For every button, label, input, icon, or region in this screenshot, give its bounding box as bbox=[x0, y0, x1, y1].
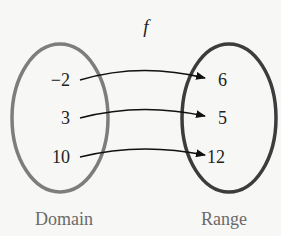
range-value-1: 6 bbox=[218, 70, 227, 90]
diagram-svg: f −2 3 10 6 5 12 Domain Range bbox=[0, 0, 281, 236]
range-value-2: 5 bbox=[218, 108, 227, 128]
function-name: f bbox=[143, 16, 151, 37]
domain-ellipse bbox=[12, 44, 108, 192]
function-mapping-diagram: f −2 3 10 6 5 12 Domain Range bbox=[0, 0, 281, 236]
domain-value-3: 10 bbox=[52, 147, 70, 167]
domain-value-1: −2 bbox=[51, 70, 70, 90]
mapping-arrow-2 bbox=[80, 109, 205, 118]
domain-label: Domain bbox=[35, 209, 93, 229]
range-value-3: 12 bbox=[207, 147, 225, 167]
range-label: Range bbox=[201, 209, 247, 229]
domain-value-2: 3 bbox=[61, 108, 70, 128]
range-ellipse bbox=[182, 44, 276, 192]
